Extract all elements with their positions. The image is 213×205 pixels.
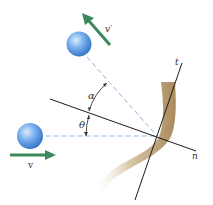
label-t: t — [175, 57, 179, 67]
label-theta: θ — [79, 119, 85, 130]
label-n: n — [192, 151, 198, 161]
outgoing-ball — [67, 32, 92, 57]
trajectory-lines — [46, 57, 157, 136]
impact-diagram: v v′ n t α θ — [0, 0, 213, 205]
label-v: v — [27, 160, 34, 170]
theta-arrowhead-icon — [84, 132, 88, 136]
wall-surface — [92, 82, 176, 198]
incoming-velocity-arrow-icon — [10, 150, 56, 160]
label-alpha: α — [88, 90, 95, 101]
label-v-prime: v′ — [105, 24, 112, 34]
incoming-ball — [17, 123, 43, 149]
